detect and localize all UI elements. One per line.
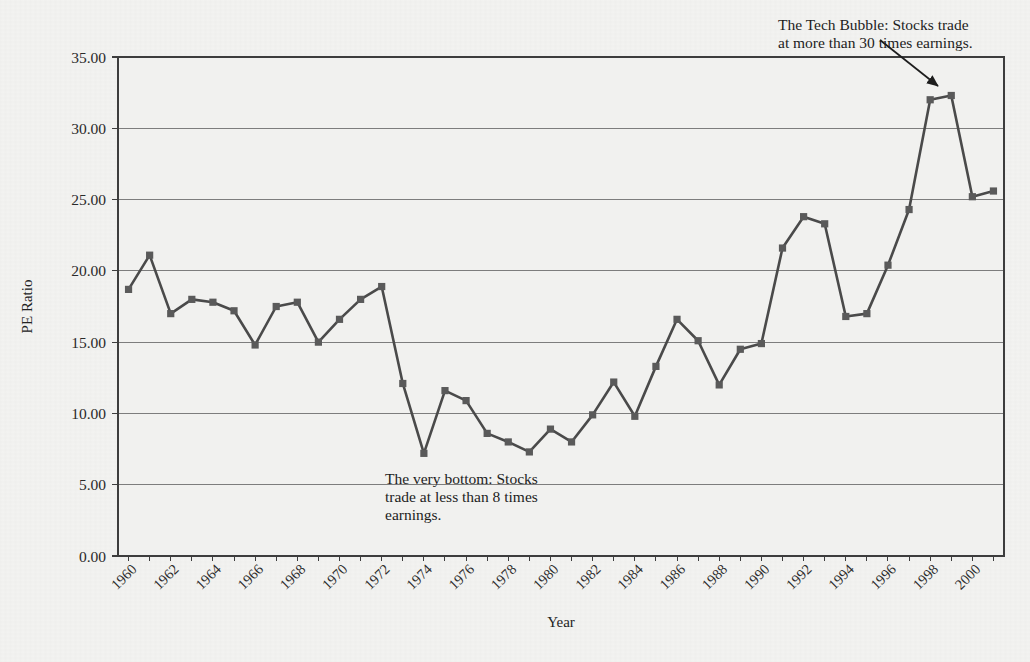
data-point-marker xyxy=(315,339,322,346)
annotation-line: The Tech Bubble: Stocks trade xyxy=(778,16,969,33)
x-tick-label: 1984 xyxy=(614,560,646,592)
y-tick-label: 30.00 xyxy=(71,120,106,137)
x-tick-label: 1968 xyxy=(277,561,309,593)
data-point-marker xyxy=(399,380,406,387)
data-point-marker xyxy=(779,244,786,251)
y-axis-title: PE Ratio xyxy=(19,280,35,334)
data-point-marker xyxy=(716,381,723,388)
data-point-marker xyxy=(462,397,469,404)
x-tick-label: 1988 xyxy=(699,561,731,593)
x-tick-label: 1996 xyxy=(867,561,899,593)
data-point-marker xyxy=(673,316,680,323)
data-point-marker xyxy=(378,283,385,290)
data-point-marker xyxy=(294,299,301,306)
x-tick-label: 1976 xyxy=(445,561,477,593)
x-tick-label: 1982 xyxy=(572,561,604,593)
data-point-marker xyxy=(568,438,575,445)
x-tick-label: 1994 xyxy=(825,560,857,592)
x-tick-label: 2000 xyxy=(952,561,984,593)
x-tick-label: 1964 xyxy=(192,560,224,592)
data-point-marker xyxy=(695,337,702,344)
data-point-marker xyxy=(631,413,638,420)
y-tick-label: 0.00 xyxy=(79,548,106,565)
data-point-marker xyxy=(589,411,596,418)
data-point-marker xyxy=(842,313,849,320)
x-tick-label: 1986 xyxy=(656,561,688,593)
pe-ratio-line-chart: 0.005.0010.0015.0020.0025.0030.0035.00PE… xyxy=(0,0,1030,662)
data-point-marker xyxy=(905,206,912,213)
annotation-line: at more than 30 times earnings. xyxy=(778,34,973,51)
data-point-marker xyxy=(652,363,659,370)
data-point-marker xyxy=(758,340,765,347)
data-point-marker xyxy=(209,299,216,306)
data-point-marker xyxy=(927,96,934,103)
data-point-marker xyxy=(800,213,807,220)
x-tick-label: 1974 xyxy=(403,560,435,592)
data-point-marker xyxy=(336,316,343,323)
y-axis: 0.005.0010.0015.0020.0025.0030.0035.00 xyxy=(71,49,118,565)
x-tick-label: 1962 xyxy=(150,561,182,593)
y-tick-label: 15.00 xyxy=(71,334,106,351)
data-point-marker xyxy=(167,310,174,317)
data-point-marker xyxy=(547,426,554,433)
data-point-marker xyxy=(230,307,237,314)
data-point-marker xyxy=(737,346,744,353)
x-tick-label: 1960 xyxy=(108,561,140,593)
x-tick-label: 1992 xyxy=(783,561,815,593)
annotation-line: trade at less than 8 times xyxy=(385,488,538,505)
y-tick-label: 20.00 xyxy=(71,262,106,279)
data-point-marker xyxy=(505,438,512,445)
x-tick-label: 1972 xyxy=(361,561,393,593)
data-point-marker xyxy=(252,341,259,348)
x-axis-title: Year xyxy=(547,614,575,630)
data-point-marker xyxy=(441,387,448,394)
data-point-marker xyxy=(484,430,491,437)
x-tick-label: 1966 xyxy=(234,561,266,593)
data-point-marker xyxy=(188,296,195,303)
y-tick-label: 25.00 xyxy=(71,191,106,208)
y-tick-label: 35.00 xyxy=(71,49,106,66)
data-point-marker xyxy=(610,378,617,385)
y-tick-label: 10.00 xyxy=(71,405,106,422)
data-point-marker xyxy=(273,303,280,310)
figure-page: 0.005.0010.0015.0020.0025.0030.0035.00PE… xyxy=(0,0,1030,662)
data-point-marker xyxy=(990,187,997,194)
x-axis: 1960196219641966196819701972197419761978… xyxy=(108,556,994,593)
data-point-marker xyxy=(420,450,427,457)
data-point-marker xyxy=(884,262,891,269)
annotation-line: earnings. xyxy=(385,506,441,523)
x-tick-label: 1990 xyxy=(741,561,773,593)
x-tick-label: 1980 xyxy=(530,561,562,593)
x-tick-label: 1978 xyxy=(488,561,520,593)
figure-caption-clip: FIGURE 2-5 xyxy=(0,630,1030,662)
data-point-marker xyxy=(357,296,364,303)
data-point-marker xyxy=(821,220,828,227)
data-point-marker xyxy=(125,286,132,293)
data-point-marker xyxy=(146,252,153,259)
data-point-marker xyxy=(948,92,955,99)
annotation-tech-bubble: The Tech Bubble: Stocks tradeat more tha… xyxy=(778,16,973,51)
data-point-marker xyxy=(526,448,533,455)
data-point-marker xyxy=(863,310,870,317)
x-tick-label: 1998 xyxy=(909,561,941,593)
x-tick-label: 1970 xyxy=(319,561,351,593)
y-tick-label: 5.00 xyxy=(79,476,106,493)
annotation-line: The very bottom: Stocks xyxy=(385,470,538,487)
data-point-marker xyxy=(969,193,976,200)
